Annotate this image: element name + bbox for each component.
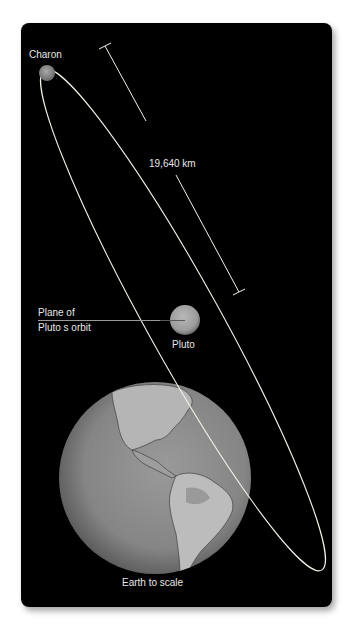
plane-label-line1: Plane of (38, 307, 75, 319)
plane-label-line2: Pluto s orbit (38, 322, 91, 334)
charon-body (39, 65, 55, 81)
earth-globe (59, 382, 251, 574)
distance-label: 19,640 km (149, 158, 196, 170)
earth-label: Earth to scale (122, 577, 183, 589)
pluto-label: Pluto (172, 339, 195, 351)
charon-label: Charon (29, 49, 62, 61)
